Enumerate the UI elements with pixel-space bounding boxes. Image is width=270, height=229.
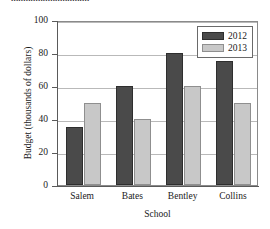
x-axis-line: [57, 186, 259, 187]
y-axis-tick: [52, 21, 57, 22]
gridline: [58, 22, 257, 23]
y-axis-tick: [52, 153, 57, 154]
bar-collins-2013: [234, 103, 251, 186]
y-axis-tick-label: 60: [8, 82, 48, 92]
x-axis-title: School: [57, 209, 258, 219]
legend-item-2012: 2012: [202, 30, 247, 42]
y-axis-tick-label: 20: [8, 148, 48, 158]
bar-salem-2013: [84, 103, 101, 186]
bar-bates-2013: [134, 119, 151, 185]
y-axis-title: Budget (thousands of dollars): [23, 23, 33, 183]
y-axis-tick-label: 0: [8, 181, 48, 191]
y-axis-tick: [52, 87, 57, 88]
legend-label-2013: 2013: [228, 43, 247, 53]
y-axis-tick-label: 100: [8, 16, 48, 26]
bar-bates-2012: [116, 86, 133, 185]
bar-salem-2012: [66, 127, 83, 185]
x-axis-label-collins: Collins: [203, 191, 263, 202]
legend-swatch-2012-icon: [202, 32, 224, 40]
y-axis-line: [57, 21, 58, 187]
bar-chart: Budget (thousands of dollars) 2012 2013 …: [0, 0, 270, 229]
legend-label-2012: 2012: [228, 31, 247, 41]
legend: 2012 2013: [197, 26, 253, 58]
bar-bentley-2012: [166, 53, 183, 185]
bar-collins-2012: [216, 61, 233, 185]
y-axis-tick: [52, 54, 57, 55]
legend-swatch-2013-icon: [202, 44, 224, 52]
bar-bentley-2013: [184, 86, 201, 185]
legend-item-2013: 2013: [202, 42, 247, 54]
plot-area: 2012 2013: [57, 21, 258, 186]
y-axis-tick: [52, 120, 57, 121]
y-axis-tick-label: 40: [8, 115, 48, 125]
y-axis-tick-label: 80: [8, 49, 48, 59]
